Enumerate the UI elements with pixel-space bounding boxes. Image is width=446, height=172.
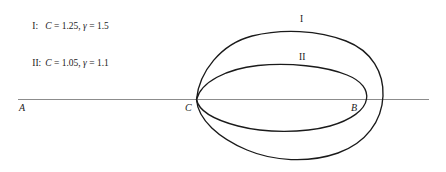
legend-row-II: II:C = 1.05, γ = 1.1 (18, 45, 109, 83)
curve-label-I: I (300, 15, 303, 25)
legend-eq-2-II: = (87, 58, 97, 68)
point-label-c: C (185, 103, 192, 113)
curve-inner-II (197, 64, 367, 131)
legend-value-C-I: 1.25 (62, 21, 79, 31)
legend-eq-2-I: = (87, 21, 97, 31)
legend-value-gamma-II: 1.1 (97, 58, 109, 68)
curve-label-II: II (299, 53, 305, 63)
legend-eq-1-II: = (52, 58, 62, 68)
legend-tag-II: II: (32, 57, 45, 70)
curve-outer-I (197, 31, 384, 159)
legend-row-I: I:C = 1.25, γ = 1.5 (18, 7, 109, 45)
legend: I:C = 1.25, γ = 1.5 II:C = 1.05, γ = 1.1 (18, 7, 109, 83)
legend-value-C-II: 1.05 (62, 58, 79, 68)
figure-container: I:C = 1.25, γ = 1.5 II:C = 1.05, γ = 1.1… (0, 0, 446, 172)
legend-eq-1-I: = (52, 21, 62, 31)
legend-value-gamma-I: 1.5 (97, 21, 109, 31)
point-label-a: A (19, 103, 25, 113)
point-label-b: B (351, 103, 357, 113)
legend-tag-I: I: (32, 20, 45, 33)
